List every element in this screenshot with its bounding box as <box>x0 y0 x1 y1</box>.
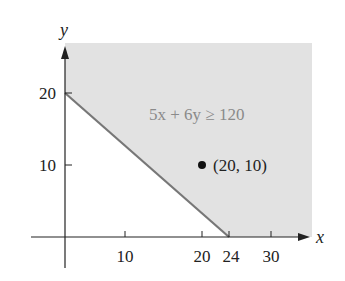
inequality-label: 5x + 6y ≥ 120 <box>149 105 244 124</box>
inequality-graph: 10 20 24 30 20 10 x y 5x + 6y ≥ 120 (20,… <box>0 0 345 281</box>
graph-canvas: 10 20 24 30 20 10 x y 5x + 6y ≥ 120 (20,… <box>0 0 345 281</box>
shaded-region <box>65 43 312 237</box>
x-tick-label-24: 24 <box>223 247 241 266</box>
y-tick-label-10: 10 <box>39 156 56 175</box>
y-axis-label: y <box>58 20 68 40</box>
point-marker <box>198 161 206 169</box>
point-label: (20, 10) <box>213 156 267 175</box>
y-tick-label-20: 20 <box>39 84 56 103</box>
x-tick-label-30: 30 <box>263 247 280 266</box>
x-tick-label-20: 20 <box>194 247 211 266</box>
y-ticks <box>65 93 72 165</box>
x-tick-label-10: 10 <box>117 247 134 266</box>
x-axis-label: x <box>315 227 324 247</box>
